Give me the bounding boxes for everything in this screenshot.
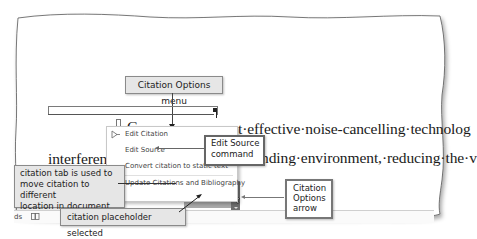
placeholder-leader-arrow <box>177 186 217 216</box>
callout-placeholder-selected: citation placeholder selected <box>60 208 186 226</box>
chevron-down-icon <box>234 207 238 209</box>
menu-separator <box>119 175 233 176</box>
book-icon[interactable] <box>31 213 40 220</box>
edit-source-leader-line <box>158 148 204 149</box>
arrowhead-left-icon-2 <box>241 195 245 199</box>
menu-item-edit-citation[interactable]: Edit Citation <box>125 130 168 138</box>
callout-edit-source-command: Edit Source command <box>204 135 265 166</box>
callout-citation-options-menu: Citation Options menu <box>125 76 223 94</box>
document-line-1: t·effective·noise-cancelling·technolog <box>238 120 471 138</box>
document-line-2-right: nding·environment,·reducing·the·v <box>261 149 477 167</box>
citation-frame-line <box>48 114 214 115</box>
frame-handle-bar <box>216 110 217 118</box>
options-arrow-leader-line <box>244 197 284 198</box>
edit-citation-icon <box>111 130 121 139</box>
citation-tab-leader-line <box>118 183 176 184</box>
callout-citation-options-arrow: Citation Options arrow <box>285 179 333 219</box>
callout-citation-tab: citation tab is used to move citation to… <box>14 165 125 208</box>
arrowhead-left-icon <box>155 146 159 150</box>
status-bar-text: ds <box>14 213 22 221</box>
